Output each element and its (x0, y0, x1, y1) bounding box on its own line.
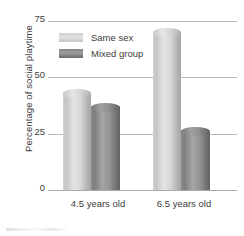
bar-cap (181, 127, 210, 136)
legend-item-mixed-group: Mixed group (59, 46, 143, 60)
bar-mixed-group-6-5-years (181, 131, 210, 190)
legend: Same sex Mixed group (59, 30, 143, 62)
chart-screenshot: Percentage of social playtime 75 50 25 0… (0, 0, 244, 236)
bar-cap (153, 28, 181, 37)
bar-mixed-group-4-5-years (91, 107, 120, 190)
gridline-50 (48, 77, 237, 78)
legend-label-mixed-group: Mixed group (91, 48, 143, 59)
x-axis-label-6-5-years: 6.5 years old (144, 198, 224, 209)
bar-cap (63, 89, 91, 98)
bar-same-sex-6-5-years (153, 32, 181, 190)
y-axis-title: Percentage of social playtime (23, 0, 34, 179)
crop-artifact (6, 228, 68, 231)
legend-swatch-icon (59, 33, 83, 42)
bar-same-sex-4-5-years (63, 93, 91, 190)
legend-item-same-sex: Same sex (59, 30, 143, 44)
y-tick-label-50: 50 (28, 69, 45, 80)
y-tick-label-0: 0 (28, 182, 45, 193)
legend-swatch-icon (59, 49, 83, 58)
bar-cap (91, 103, 120, 112)
y-tick-label-75: 75 (28, 13, 45, 24)
y-tick-label-25: 25 (28, 126, 45, 137)
gridline-75 (48, 21, 237, 22)
x-axis-label-4-5-years: 4.5 years old (58, 198, 138, 209)
axis-baseline (48, 190, 237, 191)
legend-label-same-sex: Same sex (91, 32, 133, 43)
